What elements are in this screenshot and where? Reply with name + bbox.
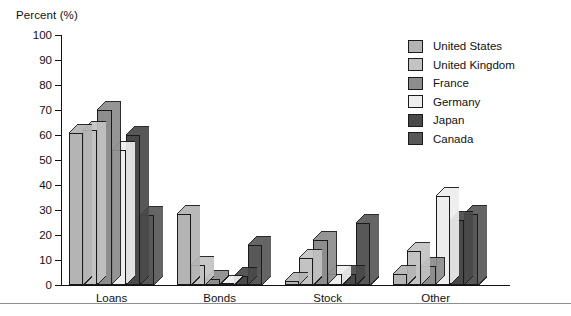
bar <box>393 274 407 285</box>
y-tick-mark <box>55 35 61 36</box>
legend-item: Canada <box>408 130 515 149</box>
bar <box>285 281 299 285</box>
bar <box>112 150 126 285</box>
bar <box>450 220 464 285</box>
bar-chart: Percent (%) 0102030405060708090100 Loans… <box>0 0 571 316</box>
bar <box>313 240 327 285</box>
y-tick-mark <box>55 160 61 161</box>
legend-item: Japan <box>408 111 515 130</box>
y-tick-label: 30 <box>39 204 52 216</box>
bar <box>342 274 356 285</box>
y-tick-mark <box>55 110 61 111</box>
y-tick-mark <box>55 185 61 186</box>
bar <box>356 223 370 286</box>
bar <box>248 245 262 285</box>
bar-group <box>69 35 163 285</box>
y-tick-label: 90 <box>39 54 52 66</box>
legend-label: France <box>433 77 469 89</box>
bar <box>220 283 234 285</box>
bar <box>205 279 219 285</box>
bar <box>464 214 478 285</box>
y-tick-mark <box>55 210 61 211</box>
bar-group <box>285 35 379 285</box>
legend-item: United States <box>408 37 515 56</box>
legend-swatch-icon <box>408 77 423 90</box>
y-tick-label: 20 <box>39 229 52 241</box>
y-tick-mark <box>55 60 61 61</box>
legend-swatch-icon <box>408 114 423 127</box>
y-tick-mark <box>55 285 61 286</box>
y-tick-label: 70 <box>39 104 52 116</box>
y-tick-label: 50 <box>39 154 52 166</box>
x-axis-line <box>61 285 510 286</box>
legend-swatch-icon <box>408 58 423 71</box>
bar <box>436 196 450 285</box>
legend-label: United States <box>433 40 502 52</box>
legend-label: Germany <box>433 96 480 108</box>
legend-label: Japan <box>433 114 464 126</box>
bar <box>126 135 140 285</box>
footer-divider <box>0 303 571 304</box>
y-tick-mark <box>55 235 61 236</box>
y-tick-label: 0 <box>46 279 52 291</box>
bar <box>299 258 313 286</box>
bar <box>140 215 154 285</box>
bar-group <box>177 35 271 285</box>
y-tick-label: 100 <box>33 29 52 41</box>
legend-item: United Kingdom <box>408 56 515 75</box>
bar <box>407 251 421 285</box>
legend-swatch-icon <box>408 95 423 108</box>
y-axis-title: Percent (%) <box>16 9 78 21</box>
legend-item: France <box>408 74 515 93</box>
legend-swatch-icon <box>408 132 423 145</box>
y-tick-label: 80 <box>39 79 52 91</box>
bar <box>83 130 97 285</box>
bar <box>177 214 191 285</box>
y-tick-label: 10 <box>39 254 52 266</box>
legend-label: Canada <box>433 133 473 145</box>
bar <box>421 266 435 285</box>
y-tick-mark <box>55 135 61 136</box>
bar <box>97 110 111 285</box>
legend-label: United Kingdom <box>433 59 515 71</box>
bar <box>234 276 248 285</box>
bar <box>191 265 205 285</box>
y-tick-label: 60 <box>39 129 52 141</box>
y-tick-mark <box>55 85 61 86</box>
y-tick-mark <box>55 260 61 261</box>
legend-item: Germany <box>408 93 515 112</box>
bar <box>69 133 83 286</box>
y-tick-label: 40 <box>39 179 52 191</box>
bar <box>328 274 342 285</box>
legend-swatch-icon <box>408 40 423 53</box>
legend: United StatesUnited KingdomFranceGermany… <box>408 37 515 148</box>
